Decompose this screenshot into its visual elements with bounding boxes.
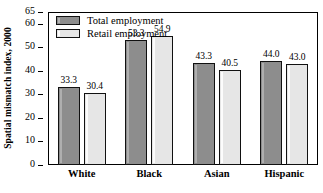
bar-highlight	[262, 63, 264, 163]
bar: 54.9	[151, 36, 173, 165]
bar-group: 43.340.5	[193, 12, 241, 165]
bar-highlight	[127, 42, 129, 163]
y-axis-tick-mark	[38, 118, 43, 119]
bar-group: 44.043.0	[260, 12, 308, 165]
legend-item: Total employment	[56, 15, 186, 26]
y-axis-tick-label: 30	[25, 87, 35, 98]
y-axis-tick-mark	[38, 165, 43, 166]
y-axis-tick-label: 0	[30, 158, 35, 169]
bar: 43.0	[286, 64, 308, 165]
y-axis-tick-mark	[38, 24, 43, 25]
swatch-highlight	[58, 31, 60, 36]
y-axis-tick-label: 65	[25, 5, 35, 16]
y-axis-tick-label: 20	[25, 111, 35, 122]
y-axis-tick-label: 50	[25, 40, 35, 51]
legend: Total employmentRetail employment	[56, 15, 186, 41]
chart-figure: Spatial mismatch index, 2000 01020304050…	[0, 0, 323, 193]
x-axis-labels: WhiteBlackAsianHispanic	[48, 168, 318, 186]
bar: 43.3	[193, 63, 215, 165]
y-axis-tick-mark	[38, 71, 43, 72]
legend-label: Total employment	[87, 15, 164, 26]
y-axis-tick-mark	[38, 12, 43, 13]
legend-item: Retail employment	[56, 28, 186, 39]
x-axis-category-label: Asian	[204, 168, 230, 179]
bar-value-label: 40.5	[221, 58, 238, 68]
bar-value-label: 43.0	[289, 52, 306, 62]
bar-value-label: 43.3	[195, 51, 212, 61]
y-axis-tick-label: 10	[25, 134, 35, 145]
x-axis-category-label: Hispanic	[264, 168, 304, 179]
bar-highlight	[60, 89, 62, 163]
bar: 53.3	[125, 40, 147, 165]
y-axis-title-text: Spatial mismatch index, 2000	[3, 27, 13, 149]
y-axis-tick-mark	[38, 94, 43, 95]
y-axis-tick-label: 60	[25, 17, 35, 28]
bar-value-label: 33.3	[60, 75, 77, 85]
bar-highlight	[86, 95, 88, 163]
bar-value-label: 44.0	[263, 49, 280, 59]
y-axis-tick-mark	[38, 47, 43, 48]
dark-gray-swatch	[56, 16, 80, 25]
light-gray-swatch	[56, 29, 80, 38]
y-axis-tick-label: 40	[25, 64, 35, 75]
y-axis-title: Spatial mismatch index, 2000	[0, 0, 16, 175]
bar: 33.3	[58, 87, 80, 165]
bar-highlight	[288, 66, 290, 163]
swatch-highlight	[58, 18, 60, 23]
x-axis-category-label: White	[68, 168, 95, 179]
bar-highlight	[153, 38, 155, 163]
bar: 40.5	[219, 70, 241, 165]
bar-highlight	[221, 72, 223, 163]
y-axis-tick-mark	[38, 141, 43, 142]
bar: 44.0	[260, 61, 282, 165]
bar: 30.4	[84, 93, 106, 165]
x-axis-category-label: Black	[136, 168, 162, 179]
bar-highlight	[195, 65, 197, 163]
legend-label: Retail employment	[87, 28, 167, 39]
bar-value-label: 30.4	[86, 81, 103, 91]
